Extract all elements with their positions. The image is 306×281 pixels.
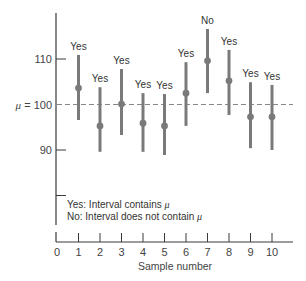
intervals: YesYesYesYesYesYesNoYesYesYes (70, 15, 280, 155)
legend-no-mu: μ (196, 211, 202, 222)
interval-mean-marker (75, 85, 82, 92)
x-tick-label: 10 (266, 246, 278, 258)
interval-sample-4: Yes (135, 79, 151, 152)
interval-mean-marker (183, 90, 190, 97)
interval-sample-8: Yes (221, 36, 237, 115)
x-tick-label: 0 (54, 246, 60, 258)
interval-annotation: Yes (135, 79, 151, 90)
interval-annotation: No (201, 15, 214, 26)
interval-mean-marker (269, 113, 276, 120)
interval-annotation: Yes (92, 73, 108, 84)
interval-sample-2: Yes (92, 73, 108, 152)
mu-value: = 100 (21, 99, 52, 111)
y-tick-label: 90 (40, 144, 52, 156)
x-tick-label: 6 (183, 246, 189, 258)
interval-mean-marker (118, 101, 125, 108)
interval-sample-7: No (201, 15, 214, 93)
x-ticks: 012345678910 (54, 233, 278, 258)
interval-mean-marker (204, 57, 211, 64)
x-tick-label: 5 (161, 246, 167, 258)
x-tick-label: 9 (247, 246, 253, 258)
interval-annotation: Yes (156, 80, 172, 91)
x-axis-label: Sample number (138, 260, 213, 272)
x-tick-label: 3 (118, 246, 124, 258)
interval-sample-9: Yes (242, 68, 258, 148)
legend-yes-text: Yes: Interval contains (67, 199, 164, 210)
x-tick-label: 4 (140, 246, 146, 258)
x-tick-label: 1 (75, 246, 81, 258)
legend-yes-mu: μ (163, 199, 169, 210)
interval-annotation: Yes (113, 55, 129, 66)
interval-mean-marker (247, 113, 254, 120)
interval-mean-marker (97, 122, 104, 129)
interval-sample-3: Yes (113, 55, 129, 135)
interval-sample-6: Yes (178, 48, 194, 126)
interval-annotation: Yes (221, 36, 237, 47)
x-tick-label: 7 (204, 246, 210, 258)
interval-sample-1: Yes (70, 41, 86, 120)
interval-mean-marker (140, 120, 147, 127)
interval-annotation: Yes (178, 48, 194, 59)
x-tick-label: 2 (97, 246, 103, 258)
y-ticks: 11090 (34, 53, 66, 196)
interval-mean-marker (161, 122, 168, 129)
interval-sample-5: Yes (156, 80, 172, 155)
y-tick-label: 110 (34, 53, 52, 65)
legend-no-text: No: Interval does not contain (67, 211, 197, 222)
legend-no: No: Interval does not contain μ (67, 211, 202, 222)
interval-annotation: Yes (264, 71, 280, 82)
confidence-interval-chart: 11090 012345678910 μ = 100 YesYesYesYesY… (0, 0, 306, 281)
interval-mean-marker (226, 77, 233, 84)
legend-yes: Yes: Interval contains μ (67, 199, 170, 210)
interval-annotation: Yes (242, 68, 258, 79)
interval-sample-10: Yes (264, 71, 280, 150)
interval-annotation: Yes (70, 41, 86, 52)
mu-reference-label: μ = 100 (15, 99, 52, 111)
x-tick-label: 8 (226, 246, 232, 258)
